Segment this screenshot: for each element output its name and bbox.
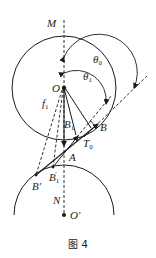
- label-Oprime: O′: [70, 209, 81, 221]
- label-Bprime: B′: [32, 180, 42, 192]
- point-B1prime: [52, 166, 55, 169]
- label-B1: B1: [64, 118, 75, 132]
- label-O: O: [52, 82, 60, 94]
- point-Bprime: [35, 174, 38, 177]
- diagram-canvas: M O f1 θ0 θ1 B B1 T0 A B′ B1′ N O′: [0, 0, 156, 258]
- label-M: M: [46, 17, 57, 29]
- figure-4-diagram: M O f1 θ0 θ1 B B1 T0 A B′ B1′ N O′ 图 4: [0, 0, 156, 258]
- label-A: A: [68, 151, 76, 163]
- label-B1prime: B1′: [49, 170, 60, 185]
- point-O: [62, 86, 66, 90]
- label-theta0: θ0: [93, 53, 102, 67]
- point-Oprime: [62, 213, 66, 217]
- dashed-O-to-Bprime: [36, 90, 62, 175]
- label-theta1: θ1: [83, 70, 92, 84]
- label-N: N: [52, 194, 61, 206]
- figure-caption: 图 4: [0, 236, 156, 251]
- label-B: B: [100, 121, 107, 133]
- label-f1: f1: [42, 97, 49, 111]
- label-T0: T0: [83, 137, 93, 151]
